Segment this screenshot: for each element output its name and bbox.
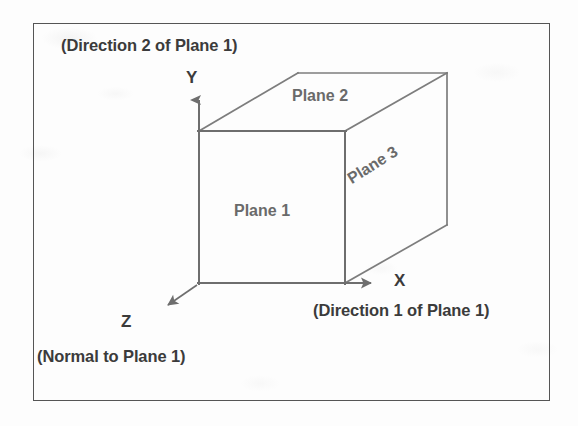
- axis-label-x: X: [394, 272, 405, 289]
- axis-label-y: Y: [186, 69, 197, 86]
- figure-page: (Direction 2 of Plane 1) (Direction 1 of…: [0, 0, 578, 426]
- label-normal-to-plane-1: (Normal to Plane 1): [37, 348, 185, 365]
- face-label-plane-2: Plane 2: [292, 88, 348, 104]
- cube-connecting-edges: [199, 73, 447, 283]
- z-axis-line: [168, 285, 197, 305]
- cube-edge-top-left-depth: [199, 73, 298, 131]
- axis-label-z: Z: [121, 313, 131, 330]
- cube-edge-top-right-depth: [345, 73, 447, 131]
- face-label-plane-1: Plane 1: [234, 203, 290, 219]
- label-direction-2-of-plane-1: (Direction 2 of Plane 1): [61, 37, 237, 54]
- label-direction-1-of-plane-1: (Direction 1 of Plane 1): [313, 302, 489, 319]
